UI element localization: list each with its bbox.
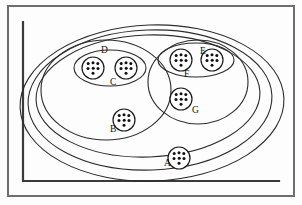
set-label-C: C [110,77,116,87]
cluster-A [168,147,190,169]
set-label-G: G [192,105,199,115]
set-label-E: E [200,46,206,56]
set-diagram-canvas: D C B E F G A [0,0,302,205]
figure-root: D C B E F G A [0,0,302,205]
cluster-F-left [170,49,192,71]
set-ellipse-outer-1 [17,20,286,185]
cluster-G [170,88,192,110]
set-label-A: A [164,158,171,168]
set-label-F: F [184,69,189,79]
cluster-D-left [82,57,104,79]
cluster-D-right [115,57,137,79]
set-label-B: B [110,124,116,134]
set-label-D: D [101,45,108,55]
